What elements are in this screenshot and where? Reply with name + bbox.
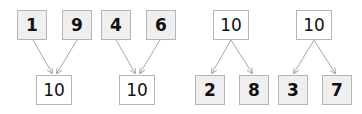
part-box: 2: [195, 75, 225, 105]
arrow-9-to-10: [57, 40, 77, 73]
part-box: 7: [322, 75, 352, 105]
arrow-1-to-10: [33, 40, 52, 73]
part-box: 9: [62, 10, 92, 40]
part-box: 3: [278, 75, 308, 105]
whole-box: 10: [213, 10, 249, 40]
arrow-4-to-10: [116, 40, 135, 73]
arrow-6-to-10: [140, 40, 160, 73]
arrow-10-to-3: [294, 40, 314, 73]
whole-box: 10: [36, 75, 72, 105]
part-box: 4: [101, 10, 131, 40]
arrow-10-to-2: [212, 40, 231, 73]
whole-box: 10: [296, 10, 332, 40]
part-box: 8: [239, 75, 269, 105]
arrow-10-to-7: [314, 40, 335, 73]
whole-box: 10: [119, 75, 155, 105]
part-box: 1: [17, 10, 47, 40]
part-box: 6: [146, 10, 176, 40]
arrow-10-to-8: [231, 40, 252, 73]
